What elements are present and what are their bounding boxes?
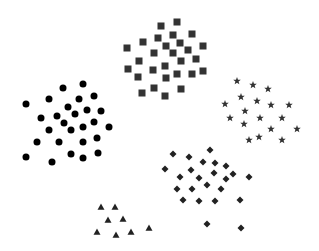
circle-marker: [80, 155, 87, 162]
circle-marker: [80, 139, 87, 146]
square-marker: [155, 35, 162, 42]
circle-marker: [38, 115, 45, 122]
circle-marker: [72, 111, 79, 118]
square-marker: [185, 47, 192, 54]
square-marker: [151, 50, 158, 57]
circle-marker: [34, 139, 41, 146]
square-marker: [178, 86, 185, 93]
circle-marker: [98, 108, 105, 115]
square-marker: [174, 19, 181, 26]
circle-marker: [91, 119, 98, 126]
circle-marker: [76, 96, 83, 103]
circle-marker: [60, 85, 67, 92]
circle-marker: [65, 104, 72, 111]
shape-clusters-svg: [0, 0, 319, 251]
circle-marker: [80, 124, 87, 131]
square-marker: [178, 58, 185, 65]
circle-marker: [68, 151, 75, 158]
circle-marker: [23, 101, 30, 108]
circle-marker: [46, 127, 53, 134]
circle-marker: [94, 135, 101, 142]
square-marker: [174, 71, 181, 78]
square-marker: [177, 40, 184, 47]
square-marker: [139, 90, 146, 97]
circle-marker: [56, 139, 63, 146]
circle-marker: [23, 154, 30, 161]
square-marker: [200, 68, 207, 75]
circle-marker: [46, 96, 53, 103]
square-marker: [151, 85, 158, 92]
square-marker: [189, 71, 196, 78]
square-marker: [162, 93, 169, 100]
circle-marker: [49, 159, 56, 166]
circle-marker: [95, 150, 102, 157]
circle-marker: [61, 120, 68, 127]
square-marker: [200, 43, 207, 50]
square-marker: [163, 43, 170, 50]
circle-marker: [80, 81, 87, 88]
square-marker: [150, 67, 157, 74]
square-marker: [124, 45, 131, 52]
circle-marker: [54, 113, 61, 120]
square-marker: [135, 74, 142, 81]
shape-clusters-canvas: [0, 0, 319, 251]
square-marker: [170, 32, 177, 39]
square-marker: [125, 66, 132, 73]
circle-marker: [91, 93, 98, 100]
square-marker: [189, 31, 196, 38]
circle-marker: [84, 107, 91, 114]
circle-marker: [106, 124, 113, 131]
square-marker: [163, 75, 170, 82]
square-marker: [162, 63, 169, 70]
square-marker: [158, 23, 165, 30]
square-marker: [140, 39, 147, 46]
square-marker: [193, 56, 200, 63]
square-marker: [170, 50, 177, 57]
circle-marker: [68, 127, 75, 134]
square-marker: [136, 58, 143, 65]
